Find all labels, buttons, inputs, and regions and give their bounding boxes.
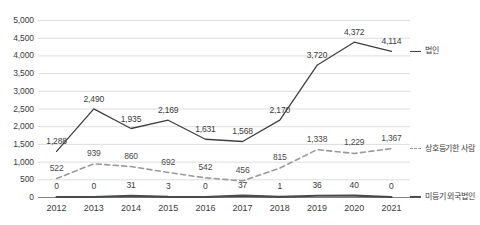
- x-axis-tick-label: 2021: [381, 204, 401, 213]
- y-axis-tick-label: 0: [0, 193, 34, 202]
- legend-item-label: 미등기 외국법인: [425, 192, 475, 201]
- y-axis-tick-label: 2,000: [0, 122, 34, 131]
- legend-item[interactable]: 상호등기한 사람: [410, 145, 475, 153]
- legend-swatch-icon: [410, 196, 421, 198]
- data-point-label: 31: [126, 181, 135, 190]
- data-point-label: 542: [199, 163, 213, 172]
- y-axis-tick-label: 5,000: [0, 16, 34, 25]
- line-chart: 5,0004,5004,0003,5003,0002,5002,0001,500…: [0, 0, 480, 225]
- y-axis-tick-label: 2,500: [0, 104, 34, 113]
- x-axis-tick-label: 2018: [270, 204, 290, 213]
- data-point-label: 860: [124, 151, 138, 160]
- data-point-label: 0: [203, 182, 208, 191]
- legend-item[interactable]: 법인: [410, 47, 439, 55]
- data-point-label: 1,935: [121, 114, 142, 123]
- data-point-label: 37: [238, 180, 247, 189]
- data-point-label: 1,631: [195, 125, 216, 134]
- data-point-label: 1,288: [46, 137, 67, 146]
- data-point-label: 40: [350, 180, 359, 189]
- y-axis: 5,0004,5004,0003,5003,0002,5002,0001,500…: [0, 0, 34, 225]
- data-point-label: 0: [92, 182, 97, 191]
- data-point-label: 1,367: [381, 133, 402, 142]
- x-axis-tick-label: 2016: [195, 204, 215, 213]
- data-point-label: 1,568: [232, 127, 253, 136]
- legend-item[interactable]: 미등기 외국법인: [410, 193, 475, 201]
- data-point-label: 939: [87, 149, 101, 158]
- y-axis-tick-label: 500: [0, 175, 34, 184]
- data-point-label: 815: [273, 153, 287, 162]
- data-point-label: 1: [278, 182, 283, 191]
- data-point-label: 2,169: [158, 106, 179, 115]
- data-point-label: 36: [312, 180, 321, 189]
- series-line: [57, 42, 392, 151]
- y-axis-tick-label: 1,000: [0, 157, 34, 166]
- data-point-label: 2,490: [84, 95, 105, 104]
- legend-item-label: 상호등기한 사람: [425, 144, 475, 153]
- data-point-label: 2,170: [270, 106, 291, 115]
- x-axis-tick-label: 2015: [158, 204, 178, 213]
- data-point-label: 4,372: [344, 28, 365, 37]
- data-point-label: 456: [236, 166, 250, 175]
- data-point-label: 0: [389, 182, 394, 191]
- x-axis-tick-label: 2020: [344, 204, 364, 213]
- y-axis-tick-label: 4,000: [0, 51, 34, 60]
- legend-swatch-icon: [410, 148, 421, 149]
- y-axis-tick-label: 3,000: [0, 87, 34, 96]
- x-axis-tick-label: 2019: [307, 204, 327, 213]
- x-axis-tick-label: 2017: [233, 204, 253, 213]
- y-axis-tick-label: 1,500: [0, 140, 34, 149]
- x-axis-tick-label: 2012: [47, 204, 67, 213]
- plot-area: 1,2882,4901,9352,1691,6311,5682,1703,720…: [38, 0, 410, 225]
- series-line: [57, 196, 392, 197]
- y-axis-tick-label: 3,500: [0, 69, 34, 78]
- y-axis-tick-label: 4,500: [0, 33, 34, 42]
- legend-item-label: 법인: [425, 46, 439, 55]
- data-point-label: 1,338: [307, 134, 328, 143]
- series-line: [57, 149, 392, 181]
- x-axis: 2012201320142015201620172018201920202021: [0, 204, 480, 220]
- data-point-label: 3,720: [307, 51, 328, 60]
- legend: 법인상호등기한 사람미등기 외국법인: [410, 0, 480, 225]
- data-point-label: 692: [161, 157, 175, 166]
- legend-swatch-icon: [410, 51, 421, 52]
- data-point-label: 522: [50, 163, 64, 172]
- data-point-label: 0: [54, 182, 59, 191]
- data-point-label: 4,114: [381, 37, 401, 46]
- x-axis-tick-label: 2014: [121, 204, 141, 213]
- data-point-label: 3: [166, 182, 171, 191]
- data-point-label: 1,229: [344, 138, 365, 147]
- x-axis-tick-label: 2013: [84, 204, 104, 213]
